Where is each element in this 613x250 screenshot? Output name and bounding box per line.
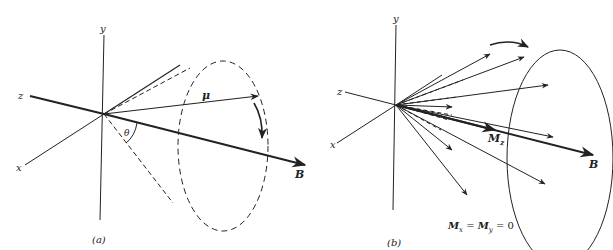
theta-label: θ <box>124 128 130 138</box>
z-axis-b <box>345 92 396 105</box>
field-b-label: B <box>294 168 304 181</box>
mz-label: Mz <box>487 132 505 147</box>
y-axis-label: y <box>99 23 106 34</box>
panel-b-labels: y z x B Mz Mx = My = 0 (b) <box>330 13 598 248</box>
x-axis <box>25 114 104 165</box>
caption-b: (b) <box>387 237 401 248</box>
field-b-label-b: B <box>588 158 598 171</box>
x-axis-b <box>337 105 396 143</box>
precession-direction-arrow-b <box>490 42 528 47</box>
y-axis-b <box>393 25 396 210</box>
z-axis-label: z <box>17 90 24 101</box>
caption-a: (a) <box>92 234 106 245</box>
precession-circle <box>178 61 268 231</box>
precession-direction-arrow <box>254 103 262 138</box>
moment-mu-label: μ <box>202 89 210 102</box>
mx-my-equation: Mx = My = 0 <box>447 220 514 234</box>
field-b-arrow <box>104 114 305 165</box>
precession-diagram: y z x B μ θ (a) <box>0 0 613 250</box>
y-axis <box>100 35 104 220</box>
panel-b <box>337 25 613 250</box>
y-axis-label-b: y <box>392 13 399 24</box>
cone-edge-bottom-dashed <box>104 114 173 203</box>
x-axis-label-b: x <box>330 139 336 150</box>
z-axis-label-b: z <box>336 86 343 97</box>
z-axis <box>30 96 104 114</box>
x-axis-label: x <box>16 162 22 173</box>
panel-a-labels: y z x B μ θ (a) <box>16 23 304 245</box>
precession-cone-base <box>507 50 613 250</box>
panel-a <box>25 35 305 231</box>
cone-edge-top-dashed <box>104 68 190 114</box>
